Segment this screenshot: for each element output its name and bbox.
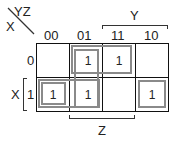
x-bracket-tick-top [23,78,27,79]
cell-0-10 [135,43,169,78]
x-bracket-label: X [11,88,20,101]
y-bracket-tick-right [167,25,168,29]
x-bracket-tick-bottom [23,110,27,111]
x-bracket [23,78,24,111]
row-header-1: 1 [27,88,34,101]
y-bracket [102,25,168,26]
row-header-0: 0 [27,54,34,67]
z-bracket-tick-right [134,115,135,119]
col-var-label: YZ [14,5,31,18]
row-var-label: X [6,20,15,33]
y-bracket-tick-left [102,25,103,29]
col-header-10: 10 [144,29,158,42]
z-bracket-label: Z [98,124,106,137]
col-header-00: 00 [44,29,58,42]
cell-value: 1 [78,55,98,67]
col-header-11: 11 [111,29,125,42]
cell-value: 1 [43,89,63,101]
z-bracket [69,118,135,119]
cell-value: 1 [142,89,162,101]
col-header-01: 01 [77,29,91,42]
z-bracket-tick-left [69,115,70,119]
cell-0-00 [36,43,70,78]
cell-value: 1 [78,89,98,101]
cell-value: 1 [109,55,129,67]
cell-1-11 [102,77,136,112]
y-bracket-label: Y [130,9,139,22]
